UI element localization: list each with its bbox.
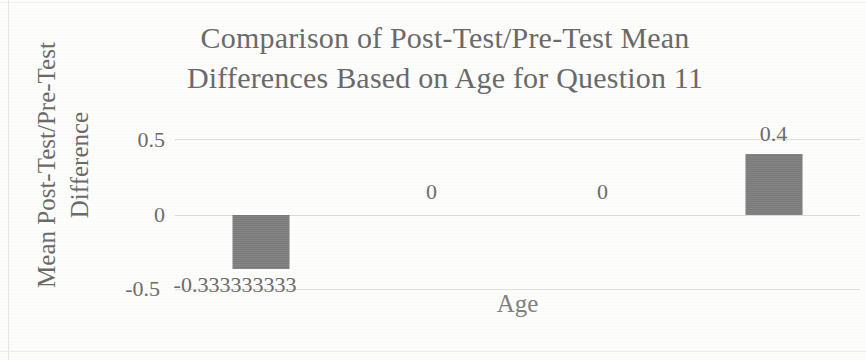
chart-title: Comparison of Post-Test/Pre-Test Mean Di… — [100, 18, 790, 98]
chart-title-line-1: Comparison of Post-Test/Pre-Test Mean — [100, 18, 790, 58]
chart-page: Comparison of Post-Test/Pre-Test Mean Di… — [0, 0, 866, 360]
chart-title-line-2: Differences Based on Age for Question 11 — [100, 58, 790, 98]
bar-slot-1: -0.333333333 — [175, 139, 346, 289]
bar-4[interactable] — [745, 154, 802, 215]
bar-1[interactable] — [232, 215, 289, 269]
scan-artifact-top — [0, 2, 866, 3]
bar-slot-3: 0 60-69 — [517, 139, 688, 289]
bar-series: -0.333333333 0 50-59 0 60-69 0.4 70-79 — [175, 139, 860, 289]
scan-artifact-bottom — [0, 351, 866, 352]
bar-3-value-label: 0 — [517, 179, 688, 205]
bar-4-value-label: 0.4 — [688, 121, 859, 147]
y-tick-label-0.5: 0.5 — [105, 127, 165, 153]
y-axis-title: Mean Post-Test/Pre-Test Difference — [30, 20, 100, 310]
bar-slot-2: 0 50-59 — [346, 139, 517, 289]
bar-slot-4: 0.4 70-79 — [688, 139, 859, 289]
y-axis-title-line-2: Difference — [63, 20, 96, 310]
y-axis-title-line-1: Mean Post-Test/Pre-Test — [30, 20, 63, 310]
bar-2-value-label: 0 — [346, 179, 517, 205]
y-tick-label-0: 0 — [105, 202, 165, 228]
x-axis-title: Age — [175, 290, 860, 318]
scan-artifact-left — [8, 0, 9, 360]
